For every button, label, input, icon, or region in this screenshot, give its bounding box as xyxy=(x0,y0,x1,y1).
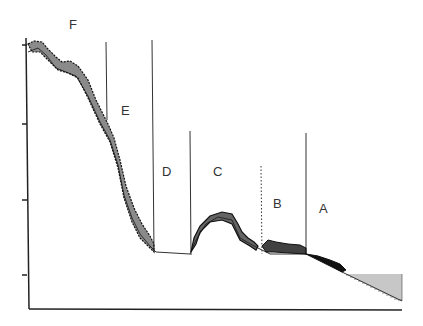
boundary-e-d xyxy=(152,40,154,252)
boundary-f-e xyxy=(106,42,107,120)
zone-label-e: E xyxy=(121,103,130,118)
foreshore-vegetation-a xyxy=(306,254,346,272)
zone-label-a: A xyxy=(319,201,328,216)
zone-label-d: D xyxy=(162,164,171,179)
profile-upper-band xyxy=(28,41,154,252)
zone-label-f: F xyxy=(69,17,77,32)
x-axis xyxy=(29,309,402,310)
boundary-c-b xyxy=(261,166,262,254)
profile-diagram xyxy=(0,0,423,326)
zone-label-c: C xyxy=(213,164,222,179)
zone-label-b: B xyxy=(273,196,282,211)
y-axis xyxy=(26,38,29,309)
hummock-b xyxy=(262,240,306,254)
boundary-d-c xyxy=(190,131,191,255)
